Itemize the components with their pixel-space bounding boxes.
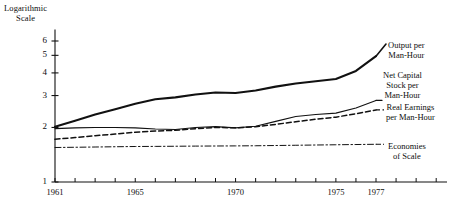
series-line-1	[55, 100, 376, 129]
y-tick-label: 1	[31, 177, 47, 186]
series-label-real-earnings: Real Earningsper Man-Hour	[386, 102, 435, 122]
series-label-capital-line1: Net Capital	[383, 70, 422, 80]
x-tick-label: 1977	[359, 188, 393, 197]
series-label-output-per-man-hour: Output perMan-Hour	[388, 40, 425, 60]
series-line-0	[55, 56, 376, 127]
x-tick-label: 1961	[38, 188, 72, 197]
chart-root: LogarithmicScale 654321 1961196519701975…	[0, 0, 459, 217]
series-line-2	[55, 110, 376, 139]
y-tick-label: 2	[31, 122, 47, 131]
series-label-scale-line1: Economies	[388, 141, 426, 151]
x-tick-label: 1975	[319, 188, 353, 197]
series-label-net-capital-stock: Net CapitalStock perMan-Hour	[383, 70, 422, 100]
series-line-3	[55, 144, 376, 147]
series-label-output-line1: Output per	[388, 40, 425, 50]
y-tick-label: 3	[31, 91, 47, 100]
y-tick-label: 5	[31, 50, 47, 59]
y-tick-label: 4	[31, 68, 47, 77]
series-label-capital-line3: Man-Hour	[385, 90, 421, 100]
x-tick-label: 1965	[118, 188, 152, 197]
series-leader-output	[376, 44, 386, 56]
series-label-earnings-line2: per Man-Hour	[386, 112, 435, 122]
series-label-economies-of-scale: Economiesof Scale	[388, 141, 426, 161]
series-label-output-line2: Man-Hour	[388, 50, 424, 60]
y-tick-label: 6	[31, 36, 47, 45]
series-label-scale-line2: of Scale	[393, 151, 421, 161]
x-tick-label: 1970	[219, 188, 253, 197]
series-label-earnings-line1: Real Earnings	[386, 102, 434, 112]
series-label-capital-line2: Stock per	[386, 80, 418, 90]
